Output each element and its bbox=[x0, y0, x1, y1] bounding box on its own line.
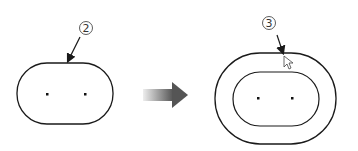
right-slot-inner bbox=[233, 72, 319, 126]
arrow-right-icon bbox=[143, 82, 188, 108]
left-slot bbox=[17, 63, 113, 124]
mouse-cursor-icon bbox=[284, 56, 293, 69]
callout-3: 3 bbox=[263, 17, 284, 54]
svg-text:2: 2 bbox=[83, 22, 90, 35]
svg-text:3: 3 bbox=[266, 17, 273, 30]
callout-2: 2 bbox=[68, 22, 93, 62]
diagram-stage: 2 3 bbox=[0, 0, 358, 151]
